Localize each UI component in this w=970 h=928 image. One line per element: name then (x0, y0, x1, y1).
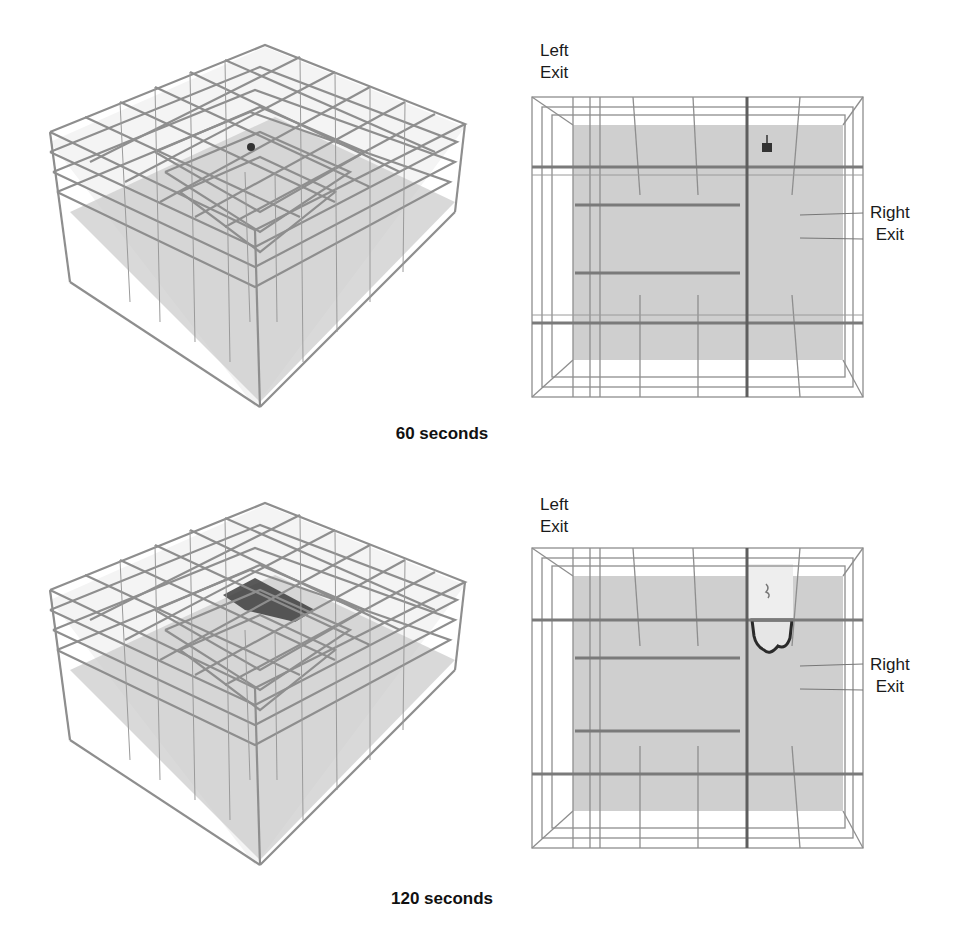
building-wireframe-3d (45, 42, 475, 412)
plan-view-120s: Left Exit (530, 494, 865, 869)
fire-source-icon (247, 143, 255, 151)
fire-plume (748, 564, 793, 652)
time-caption-120s: 120 seconds (292, 889, 592, 909)
plan-view-60s: Left Exit (530, 40, 865, 415)
building-wireframe-3d (45, 500, 475, 870)
left-exit-label: Left Exit (540, 40, 568, 84)
right-exit-label: Right Exit (870, 202, 910, 246)
left-exit-label: Left Exit (540, 494, 568, 538)
building-plan-view (530, 546, 865, 856)
iso-view-60s (45, 42, 475, 412)
building-plan-view (530, 95, 865, 405)
right-exit-label: Right Exit (870, 654, 910, 698)
iso-view-120s (45, 500, 475, 870)
time-caption-60s: 60 seconds (292, 424, 592, 444)
